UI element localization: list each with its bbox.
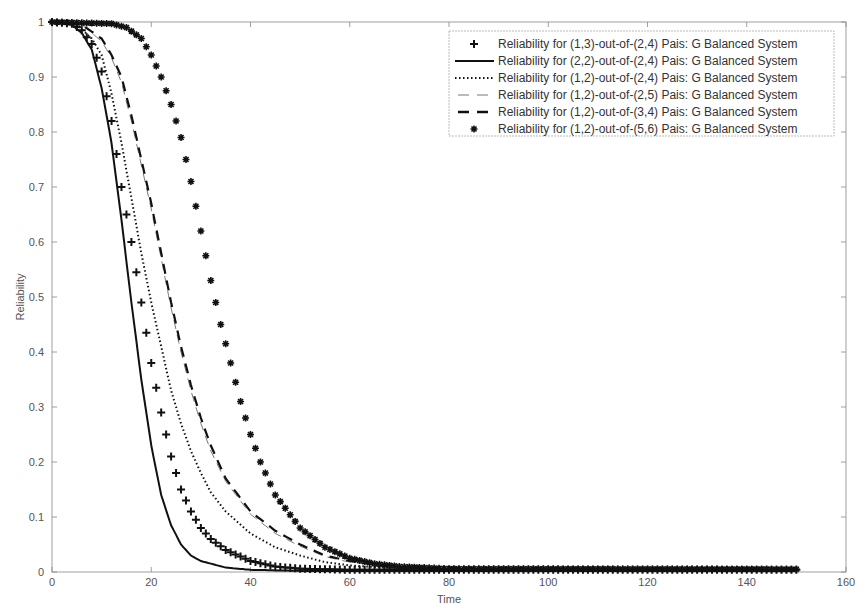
legend-label: Reliability for (1,2)-out-of-(2,4) Pais:… bbox=[498, 71, 797, 85]
y-tick-label: 1 bbox=[38, 16, 44, 28]
plus-marker bbox=[197, 524, 205, 532]
y-tick-label: 0.1 bbox=[29, 511, 44, 523]
star-marker bbox=[192, 203, 199, 210]
plus-marker bbox=[167, 453, 175, 461]
star-marker bbox=[187, 178, 194, 185]
star-marker bbox=[182, 156, 189, 163]
x-tick-label: 20 bbox=[145, 576, 157, 588]
legend-item-1: Reliability for (1,3)-out-of-(2,4) Pais:… bbox=[498, 37, 797, 51]
plus-marker bbox=[117, 183, 125, 191]
star-marker bbox=[252, 445, 259, 452]
star-marker bbox=[207, 277, 214, 284]
plus-marker bbox=[251, 558, 259, 566]
star-marker bbox=[202, 252, 209, 259]
star-marker bbox=[143, 43, 150, 50]
star-marker bbox=[178, 134, 185, 141]
y-tick-label: 0.6 bbox=[29, 236, 44, 248]
star-marker bbox=[217, 321, 224, 328]
star-marker bbox=[163, 87, 170, 94]
star-marker bbox=[356, 557, 363, 564]
plus-marker bbox=[177, 486, 185, 494]
plus-marker bbox=[266, 561, 274, 569]
star-marker bbox=[793, 566, 800, 573]
star-marker bbox=[173, 118, 180, 125]
star-marker bbox=[227, 360, 234, 367]
star-marker bbox=[267, 481, 274, 488]
legend-item-4: Reliability for (1,2)-out-of-(2,5) Pais:… bbox=[498, 88, 797, 102]
star-marker bbox=[346, 555, 353, 562]
plus-marker bbox=[152, 384, 160, 392]
star-marker bbox=[361, 558, 368, 565]
x-tick-label: 60 bbox=[344, 576, 356, 588]
y-tick-label: 0.4 bbox=[29, 346, 44, 358]
star-marker bbox=[282, 505, 289, 512]
plus-marker bbox=[261, 560, 269, 568]
legend-item-5: Reliability for (1,2)-out-of-(3,4) Pais:… bbox=[498, 105, 797, 119]
star-marker bbox=[133, 31, 140, 38]
legend-label: Reliability for (1,2)-out-of-(2,5) Pais:… bbox=[498, 88, 797, 102]
star-marker bbox=[237, 398, 244, 405]
legend-label: Reliability for (1,3)-out-of-(2,4) Pais:… bbox=[498, 37, 797, 51]
star-marker bbox=[138, 35, 145, 42]
plus-marker bbox=[192, 516, 200, 524]
y-tick-label: 0.3 bbox=[29, 401, 44, 413]
star-marker bbox=[118, 23, 125, 30]
star-marker bbox=[292, 518, 299, 525]
plus-marker bbox=[182, 497, 190, 505]
x-axis-title: Time bbox=[437, 593, 461, 605]
star-marker bbox=[168, 101, 175, 108]
legend: Reliability for (1,3)-out-of-(2,4) Pais:… bbox=[449, 31, 834, 136]
plus-marker bbox=[122, 211, 130, 219]
star-marker bbox=[471, 126, 478, 133]
star-marker bbox=[257, 459, 264, 466]
star-marker bbox=[212, 299, 219, 306]
x-tick-label: 140 bbox=[738, 576, 756, 588]
star-marker bbox=[123, 24, 130, 31]
star-marker bbox=[113, 21, 120, 28]
star-marker bbox=[153, 63, 160, 70]
star-marker bbox=[287, 511, 294, 518]
star-marker bbox=[222, 340, 229, 347]
star-marker bbox=[272, 492, 279, 499]
x-tick-label: 160 bbox=[837, 576, 855, 588]
plus-marker bbox=[162, 431, 170, 439]
legend-item-6: Reliability for (1,2)-out-of-(5,6) Pais:… bbox=[498, 122, 797, 136]
x-tick-label: 120 bbox=[638, 576, 656, 588]
legend-label: Reliability for (2,2)-out-of-(2,4) Pais:… bbox=[498, 54, 797, 68]
star-marker bbox=[366, 559, 373, 566]
y-axis-title: Reliability bbox=[14, 273, 26, 321]
x-tick-label: 80 bbox=[443, 576, 455, 588]
legend-label: Reliability for (1,2)-out-of-(5,6) Pais:… bbox=[498, 122, 797, 136]
plus-marker bbox=[142, 329, 150, 337]
plus-marker bbox=[172, 469, 180, 477]
x-tick-label: 100 bbox=[539, 576, 557, 588]
star-marker bbox=[351, 556, 358, 563]
plus-marker bbox=[187, 508, 195, 516]
star-marker bbox=[277, 498, 284, 505]
y-tick-label: 0.5 bbox=[29, 291, 44, 303]
y-tick-label: 0 bbox=[38, 566, 44, 578]
plus-marker bbox=[127, 238, 135, 246]
y-tick-label: 0.7 bbox=[29, 181, 44, 193]
star-marker bbox=[242, 415, 249, 422]
star-marker bbox=[262, 470, 269, 477]
plus-marker bbox=[137, 299, 145, 307]
star-marker bbox=[128, 28, 135, 35]
reliability-chart: 02040608010012014016000.10.20.30.40.50.6… bbox=[0, 0, 865, 614]
star-marker bbox=[108, 20, 115, 27]
y-tick-label: 0.8 bbox=[29, 126, 44, 138]
star-marker bbox=[247, 431, 254, 438]
star-marker bbox=[148, 52, 155, 59]
star-marker bbox=[232, 379, 239, 386]
plus-marker bbox=[256, 559, 264, 567]
plus-marker bbox=[132, 268, 140, 276]
plus-marker bbox=[147, 359, 155, 367]
y-tick-label: 0.2 bbox=[29, 456, 44, 468]
plus-marker bbox=[202, 530, 210, 538]
y-tick-label: 0.9 bbox=[29, 71, 44, 83]
plus-marker bbox=[157, 409, 165, 417]
legend-item-2: Reliability for (2,2)-out-of-(2,4) Pais:… bbox=[498, 54, 797, 68]
star-marker bbox=[197, 228, 204, 235]
star-marker bbox=[158, 74, 165, 81]
x-tick-label: 40 bbox=[244, 576, 256, 588]
